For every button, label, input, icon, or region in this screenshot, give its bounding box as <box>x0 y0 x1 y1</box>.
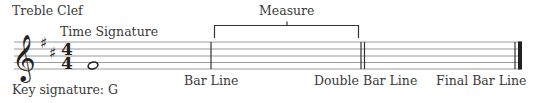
key-signature-label: Key signature: G <box>12 84 118 97</box>
double-bar-line-label: Double Bar Line <box>314 75 417 88</box>
final-bar-line-label: Final Bar Line <box>436 75 526 88</box>
time-sig-bottom: 4 <box>61 53 73 73</box>
measure-bracket <box>215 22 359 39</box>
treble-clef-label: Treble Clef <box>12 5 83 18</box>
sharp-f-icon: ♯ <box>40 34 47 52</box>
measure-label: Measure <box>259 5 315 18</box>
time-signature-label: Time Signature <box>60 26 158 39</box>
treble-clef-icon: 𝄞 <box>12 34 36 83</box>
bar-line-label: Bar Line <box>184 75 238 88</box>
staff-lines <box>14 42 522 69</box>
sharp-c-icon: ♯ <box>49 44 56 62</box>
